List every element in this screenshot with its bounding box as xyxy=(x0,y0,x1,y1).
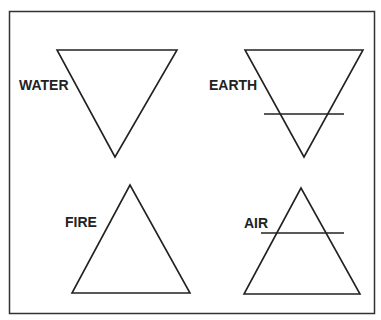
air-label: AIR xyxy=(244,215,268,231)
fire-triangle-icon xyxy=(72,185,190,293)
earth-label: EARTH xyxy=(209,77,257,93)
fire-label: FIRE xyxy=(65,214,97,230)
water-triangle-icon xyxy=(57,50,177,157)
water-symbol: WATER xyxy=(19,50,177,157)
earth-triangle-icon xyxy=(245,50,363,157)
fire-symbol: FIRE xyxy=(65,185,190,293)
air-symbol: AIR xyxy=(244,188,360,294)
water-label: WATER xyxy=(19,77,69,93)
air-triangle-icon xyxy=(244,188,360,294)
earth-symbol: EARTH xyxy=(209,50,363,157)
frame-border xyxy=(10,12,375,314)
elements-diagram: WATER EARTH FIRE AIR xyxy=(0,0,381,320)
